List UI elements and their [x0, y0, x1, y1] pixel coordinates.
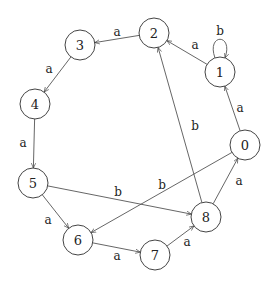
state-node-8: 8 [191, 202, 221, 232]
state-label: 3 [76, 38, 84, 53]
state-node-1: 1 [205, 57, 235, 87]
edge-label: a [113, 249, 120, 263]
automaton-diagram: 012345678 aabaaababbaaa [0, 0, 277, 286]
edge-label: b [191, 119, 199, 133]
edge-1-to-2 [167, 41, 207, 65]
state-node-6: 6 [63, 225, 93, 255]
state-label: 6 [74, 233, 82, 248]
state-node-4: 4 [20, 89, 50, 119]
state-node-3: 3 [65, 30, 95, 60]
edge-8-to-0 [213, 158, 238, 204]
edge-label: a [45, 62, 52, 76]
edge-label: a [44, 213, 51, 227]
state-label: 4 [31, 97, 39, 112]
state-node-0: 0 [230, 130, 260, 160]
state-label: 5 [29, 176, 37, 191]
edge-1-to-1 [213, 39, 227, 58]
edge-label: b [158, 178, 166, 192]
edge-label: a [19, 136, 26, 150]
edge-label: a [113, 25, 120, 39]
edge-label: b [114, 185, 122, 199]
state-node-2: 2 [139, 18, 169, 48]
edge-4-to-5 [33, 119, 34, 168]
state-label: 1 [216, 65, 224, 80]
state-node-7: 7 [140, 240, 170, 270]
edge-label: a [191, 38, 198, 52]
edge-label: a [183, 235, 190, 249]
edge-label: a [235, 174, 242, 188]
edge-label: b [216, 24, 224, 38]
state-label: 2 [150, 26, 158, 41]
edge-label: a [236, 101, 243, 115]
state-label: 7 [151, 248, 159, 263]
nodes-layer: 012345678 [18, 18, 260, 270]
state-label: 0 [241, 138, 249, 153]
state-label: 8 [202, 210, 210, 225]
state-node-5: 5 [18, 168, 48, 198]
